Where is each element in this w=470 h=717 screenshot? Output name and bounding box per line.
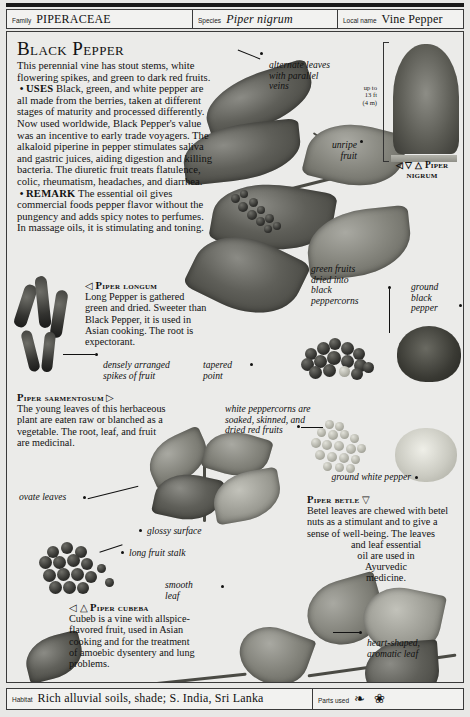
top-rule <box>6 3 464 7</box>
leader-alternate-leaves <box>238 50 261 60</box>
annotation-white-peppercorns-text: white peppercorns are soaked, skinned, a… <box>225 403 311 435</box>
parts-used-label: Parts used <box>318 697 349 704</box>
annotation-dot-long-fruit-stalk <box>121 551 124 554</box>
annotation-smooth-leaf: smooth leaf <box>165 570 225 601</box>
annotation-dot-white-peppercorns <box>297 425 300 428</box>
vine-caption: ◁ ▽ △ Piper nigrum <box>379 160 464 180</box>
piper-longum-body: Long Pepper is gathered green and dried.… <box>85 291 206 347</box>
annotation-densely-arranged: densely arranged spikes of fruit <box>103 350 211 381</box>
piper-betle-line-7: medicine. <box>307 572 464 583</box>
annotation-heart-shaped: heart-shaped, aromatic leaf <box>367 628 463 659</box>
ground-black-pepper-heap <box>397 326 461 382</box>
vine-caption-marker: ◁ ▽ △ <box>396 160 423 170</box>
remark-bullet: • <box>17 188 26 199</box>
caption-piper-longum: ◁ Piper longum Long Pepper is gathered g… <box>85 280 209 347</box>
page-title: Black Pepper <box>17 38 124 60</box>
annotation-dot-ground-white-pepper <box>415 476 418 479</box>
habitat-label: Habitat <box>12 696 33 703</box>
annotation-tapered-point-text: tapered point <box>203 359 232 380</box>
piper-betle-marker: ▽ <box>362 494 370 505</box>
footer-bar: Habitat Rich alluvial soils, shade; S. I… <box>6 688 464 710</box>
vine-caption-line-1: Piper <box>425 160 448 170</box>
piper-longum-marker: ◁ <box>85 280 93 291</box>
annotation-smooth-leaf-text: smooth leaf <box>165 579 193 600</box>
footer-parts-used-cell: Parts used ❧ ❀ <box>312 689 463 709</box>
piper-betle-heading: Piper betle <box>307 494 360 505</box>
parts-used-icons: ❧ ❀ <box>354 691 388 707</box>
annotation-long-fruit-stalk-text: long fruit stalk <box>129 547 186 558</box>
header-bar: Family PIPERACEAE Species Piper nigrum L… <box>6 9 464 29</box>
intro-text: This perennial vine has stout stems, whi… <box>17 60 215 234</box>
remark-label: REMARK <box>26 188 75 199</box>
header-family-cell: Family PIPERACEAE <box>7 10 192 28</box>
annotation-ground-black-pepper: ground black pepper <box>411 272 464 314</box>
annotation-alternate-leaves: alternate leaves with parallel veins <box>269 50 369 92</box>
header-localname-cell: Local name Vine Pepper <box>337 10 463 28</box>
annotation-green-fruits-text: green fruits dried into black peppercorn… <box>311 263 359 305</box>
annotation-dot-ground-black-pepper <box>459 304 462 307</box>
annotation-heart-shaped-text: heart-shaped, aromatic leaf <box>367 637 420 658</box>
piper-betle-line-4: and leaf essential <box>307 539 464 550</box>
piper-betle-line-1: Betel leaves are chewed with betel <box>307 505 448 516</box>
annotation-dot-alternate-leaves <box>260 52 263 55</box>
family-label: Family <box>12 17 31 24</box>
species-value: Piper nigrum <box>226 12 293 27</box>
species-label: Species <box>198 17 221 24</box>
annotation-ovate-leaves: ovate leaves <box>19 492 91 502</box>
vine-habit-illustration <box>383 42 459 162</box>
piper-sarmentosum-body: The young leaves of this herbaceous plan… <box>17 403 166 448</box>
herbal-reference-page: Family PIPERACEAE Species Piper nigrum L… <box>0 0 470 717</box>
footer-habitat-cell: Habitat Rich alluvial soils, shade; S. I… <box>7 689 312 709</box>
annotation-dot-unripe-fruit <box>360 140 363 143</box>
illustration-plate: Black Pepper This perennial vine has sto… <box>6 31 464 683</box>
annotation-long-fruit-stalk: long fruit stalk <box>129 548 221 558</box>
piper-longum-heading: Piper longum <box>96 280 158 291</box>
cubeb-berry-pile <box>33 538 129 604</box>
piper-betle-line-3: sense of well-being. The leaves <box>307 528 435 539</box>
intro-lead: This perennial vine has stout stems, whi… <box>17 60 210 83</box>
annotation-ovate-leaves-text: ovate leaves <box>19 491 66 502</box>
local-name-label: Local name <box>343 17 377 24</box>
annotation-ground-black-pepper-text: ground black pepper <box>411 281 438 313</box>
annotation-ground-white-pepper: ground white pepper <box>295 472 411 482</box>
annotation-white-peppercorns: white peppercorns are soaked, skinned, a… <box>225 394 347 436</box>
annotation-dot-smooth-leaf <box>221 585 224 588</box>
header-species-cell: Species Piper nigrum <box>192 10 337 28</box>
piper-sarmentosum-marker: ▷ <box>106 392 114 403</box>
uses-label: USES <box>26 83 53 94</box>
annotation-dot-tapered-point <box>250 363 253 366</box>
scale-line-3: (4 m) <box>345 99 377 106</box>
annotation-glossy-surface-text: glossy surface <box>147 525 202 536</box>
piper-betle-line-5: oil are used in <box>307 550 464 561</box>
black-peppercorn-pile <box>295 332 387 384</box>
piper-cubeba-marker: ◁ △ <box>69 602 88 613</box>
annotation-unripe-fruit-text: unripe fruit <box>332 139 357 160</box>
leader-ovate-leaves <box>88 486 139 500</box>
annotation-ground-white-pepper-text: ground white pepper <box>331 471 411 482</box>
annotation-green-fruits: green fruits dried into black peppercorn… <box>311 254 385 306</box>
family-value: PIPERACEAE <box>36 12 111 27</box>
piper-cubeba-body: Cubeb is a vine with allspice-flavored f… <box>69 613 195 669</box>
habitat-value: Rich alluvial soils, shade; S. India, Sr… <box>38 691 264 706</box>
leader-green-fruits <box>389 289 390 333</box>
leader-heart-shaped <box>333 632 361 633</box>
piper-sarmentosum-heading: Piper sarmentosum <box>17 392 104 403</box>
piper-cubeba-heading: Piper cubeba <box>90 602 149 613</box>
scale-line-2: 13 ft <box>345 91 377 98</box>
annotation-dot-ovate-leaves <box>83 496 86 499</box>
annotation-dot-densely-arranged <box>95 353 98 356</box>
local-name-value: Vine Pepper <box>382 12 443 27</box>
piper-betle-line-6: Ayurvedic <box>307 561 464 572</box>
leader-densely-arranged <box>63 354 95 355</box>
annotation-dot-glossy-surface <box>139 529 142 532</box>
annotation-densely-arranged-text: densely arranged spikes of fruit <box>103 359 170 380</box>
uses-text: Black, green, and white pepper are all m… <box>17 83 212 187</box>
annotation-glossy-surface: glossy surface <box>147 526 221 536</box>
caption-piper-cubeba: ◁ △ Piper cubeba Cubeb is a vine with al… <box>69 602 197 669</box>
vine-caption-line-2: nigrum <box>406 170 437 180</box>
uses-bullet: • <box>17 83 26 94</box>
caption-piper-betle: Piper betle ▽ Betel leaves are chewed wi… <box>307 494 464 584</box>
leader-white-peppercorns <box>301 427 323 428</box>
annotation-unripe-fruit: unripe fruit <box>299 130 357 161</box>
caption-piper-sarmentosum: Piper sarmentosum ▷ The young leaves of … <box>17 392 167 448</box>
